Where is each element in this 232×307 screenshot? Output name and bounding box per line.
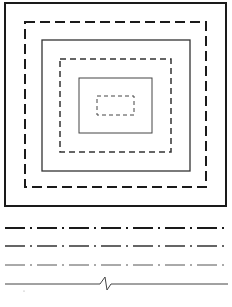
stray-dot — [23, 290, 24, 291]
background — [0, 0, 232, 307]
line-type-diagram — [0, 0, 232, 307]
